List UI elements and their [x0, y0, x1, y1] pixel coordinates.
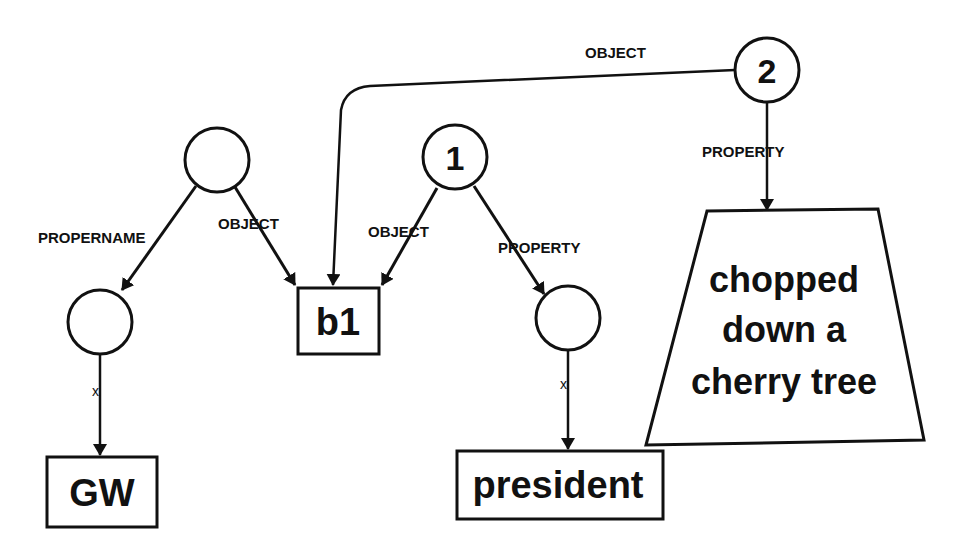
node-president: president — [457, 451, 663, 519]
edge-top-left-to-b1 — [235, 187, 295, 285]
edge-label-object-n1: OBJECT — [368, 223, 429, 240]
edge-label-object-left: OBJECT — [218, 215, 279, 232]
edge-label-x-left: x — [92, 383, 99, 399]
node-president-label: president — [472, 464, 643, 506]
node-gw-label: GW — [69, 472, 135, 514]
node-cherry-line-1: chopped — [709, 259, 859, 300]
node-cherry: chopped down a cherry tree — [646, 209, 924, 445]
node-2-label: 2 — [758, 52, 777, 90]
node-1: 1 — [423, 125, 487, 189]
node-cherry-line-2: down a — [722, 309, 847, 350]
node-1-label: 1 — [446, 139, 465, 177]
edge-label-x-right: x — [560, 376, 567, 392]
node-b1-label: b1 — [316, 301, 360, 343]
edge-label-property-n2: PROPERTY — [702, 143, 785, 160]
node-right-mid — [536, 286, 600, 350]
edge-label-property-n1: PROPERTY — [498, 239, 581, 256]
semantic-network-diagram: PROPERNAME OBJECT OBJECT PROPERTY OBJECT… — [0, 0, 957, 555]
node-gw: GW — [47, 457, 157, 527]
edge-label-propername: PROPERNAME — [38, 229, 146, 246]
node-top-left — [185, 128, 249, 192]
node-cherry-line-3: cherry tree — [691, 361, 877, 402]
node-2: 2 — [735, 38, 799, 102]
node-b1: b1 — [298, 288, 379, 354]
node-left-mid — [68, 290, 132, 354]
edge-label-object-n2: OBJECT — [585, 44, 646, 61]
